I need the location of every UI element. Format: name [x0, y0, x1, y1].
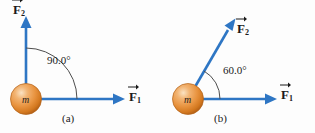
vector-symbol-f1: F	[281, 88, 289, 101]
panel-a-graphics	[0, 0, 157, 133]
vector-symbol-f2: F	[237, 22, 245, 35]
vector-label-f2: F2	[13, 3, 25, 18]
vector-arrow-overbar-icon	[280, 82, 291, 88]
force-diagram-figure: m 90.0° F2 F1 (a)	[0, 0, 315, 133]
angle-label-60: 60.0°	[223, 65, 247, 76]
panel-b: m 60.0° F2 F1 (b)	[157, 0, 314, 133]
vector-label-f1: F1	[281, 88, 293, 103]
vector-symbol-f1: F	[129, 90, 137, 103]
angle-arc-60	[204, 71, 220, 99]
panel-a: m 90.0° F2 F1 (a)	[0, 0, 157, 133]
angle-label-90: 90.0°	[47, 55, 71, 66]
mass-label: m	[184, 95, 191, 105]
vector-arrow-overbar-icon	[236, 16, 247, 22]
panel-caption-b: (b)	[214, 113, 227, 124]
vector-label-f1: F1	[129, 90, 141, 105]
vector-symbol-f2: F	[13, 3, 21, 16]
vector-arrow-overbar-icon	[12, 0, 23, 3]
mass-label: m	[22, 95, 29, 105]
vector-label-f2: F2	[237, 22, 249, 37]
panel-caption-a: (a)	[62, 113, 74, 124]
vector-arrow-overbar-icon	[128, 84, 139, 90]
